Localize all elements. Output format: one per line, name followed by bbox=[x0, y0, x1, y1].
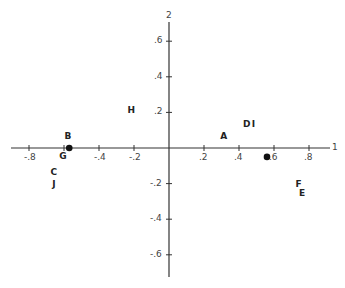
y-tick-label: .2 bbox=[154, 107, 163, 116]
point-label-f: F bbox=[296, 180, 302, 189]
y-tick-label: .4 bbox=[154, 72, 163, 81]
x-tick-label: -.2 bbox=[129, 153, 141, 162]
point-label-j: J bbox=[52, 180, 55, 189]
point-label-c: C bbox=[51, 168, 58, 177]
x-tick-label: .4 bbox=[234, 153, 243, 162]
x-tick-label: -.8 bbox=[24, 153, 36, 162]
centroid-1-marker bbox=[66, 145, 73, 152]
scatter-plot bbox=[0, 0, 345, 288]
x-axis-label: 1 bbox=[332, 143, 338, 152]
point-label-a: A bbox=[220, 132, 227, 141]
point-label-g: G bbox=[59, 152, 66, 161]
y-axis-label: 2 bbox=[166, 11, 172, 20]
x-tick-label: .2 bbox=[199, 153, 208, 162]
y-tick-label: -.6 bbox=[150, 250, 162, 259]
y-tick-label: .6 bbox=[154, 36, 163, 45]
point-label-d: D bbox=[243, 120, 250, 129]
x-tick-label: -.4 bbox=[94, 153, 106, 162]
point-label-e: E bbox=[299, 189, 305, 198]
point-label-h: H bbox=[128, 106, 136, 115]
x-tick-label: .8 bbox=[304, 153, 313, 162]
y-tick-label: -.4 bbox=[150, 214, 162, 223]
y-tick-label: -.2 bbox=[150, 179, 162, 188]
point-label-i: I bbox=[252, 120, 255, 129]
x-tick-label: .6 bbox=[269, 153, 278, 162]
axes bbox=[11, 22, 330, 277]
point-label-b: B bbox=[65, 132, 72, 141]
